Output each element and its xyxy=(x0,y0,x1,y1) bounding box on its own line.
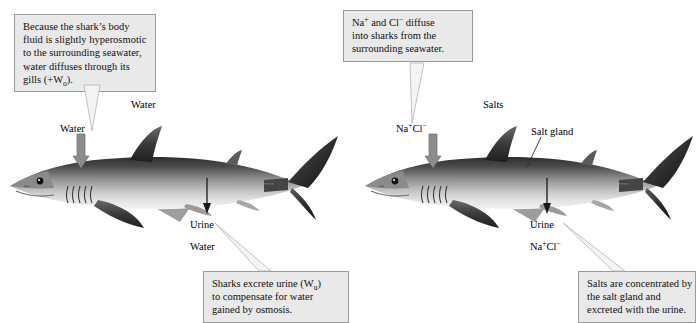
water-influx-arrow-left xyxy=(72,134,90,170)
callout-water-line1: Because the shark’s body xyxy=(23,20,148,33)
salt-influx-arrow-right xyxy=(424,134,442,170)
label-urine-left: Urine xyxy=(190,219,214,231)
urine-arrow-left xyxy=(201,178,213,216)
callout-saltex-line3: excreted with the urine. xyxy=(587,303,688,316)
callout-salt-excretion: Salts are concentrated by the salt gland… xyxy=(578,271,696,323)
callout-salt-excretion-tail xyxy=(563,223,629,273)
callout-water-line2: fluid is slightly hyperosmotic xyxy=(23,33,148,46)
label-nacl-gill: Na+Cl− xyxy=(396,123,427,135)
callout-urine-excretion: Sharks excrete urine (Wu) to compensate … xyxy=(203,271,349,323)
callout-salt-line3: surrounding seawater. xyxy=(352,42,465,55)
callout-saltex-line2: the salt gland and xyxy=(587,290,688,303)
label-salts-top: Salts xyxy=(483,99,503,111)
callout-salt-diffusion: Na+ and Cl− diffuse into sharks from the… xyxy=(343,10,473,62)
callout-urine-line1: Sharks excrete urine (Wu) xyxy=(212,277,341,290)
label-water-urine-left: Water xyxy=(190,241,215,253)
label-urine-right: Urine xyxy=(530,219,554,231)
label-nacl-urine: Na+Cl− xyxy=(530,241,561,253)
salt-gland-leader-line xyxy=(521,137,545,171)
callout-urine-line3: gained by osmosis. xyxy=(212,303,341,316)
callout-salt-line2: into sharks from the xyxy=(352,29,465,42)
callout-saltex-line1: Salts are concentrated by xyxy=(587,277,688,290)
callout-water-line4: water diffuses through its xyxy=(23,60,148,73)
callout-salt-line1: Na+ and Cl− diffuse xyxy=(352,16,465,29)
urine-arrow-right xyxy=(541,178,553,216)
shark-illustration-left xyxy=(2,126,342,236)
label-water-top: Water xyxy=(131,99,156,111)
callout-salt-tail xyxy=(398,63,434,125)
callout-water-tail xyxy=(80,85,120,131)
callout-water-line3: to the surrounding seawater, xyxy=(23,46,148,59)
callout-urine-line2: to compensate for water xyxy=(212,290,341,303)
callout-water-diffusion: Because the shark’s body fluid is slight… xyxy=(14,14,156,92)
osmoregulation-figure: Because the shark’s body fluid is slight… xyxy=(0,0,696,323)
callout-urine-tail xyxy=(215,223,275,273)
